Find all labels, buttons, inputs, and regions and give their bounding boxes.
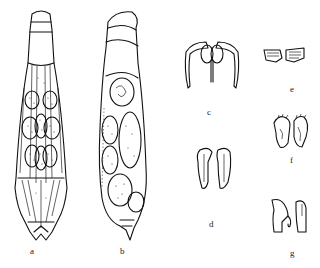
panel-label-c: c [207,108,211,117]
panel-e-illustration [262,46,306,66]
panel-label-d: d [209,220,214,229]
panel-label-a: a [30,247,34,256]
panel-g-illustration [270,198,310,236]
panel-label-f: f [290,156,293,165]
panel-a-illustration [10,8,72,248]
panel-c-illustration [182,38,242,94]
panel-d-illustration [194,146,234,192]
panel-label-e: e [290,85,294,94]
panel-label-g: g [290,249,295,258]
panel-b-illustration [94,8,156,248]
panel-label-b: b [120,247,125,256]
panel-f-illustration [270,113,310,151]
figure: a b c d [0,0,320,268]
